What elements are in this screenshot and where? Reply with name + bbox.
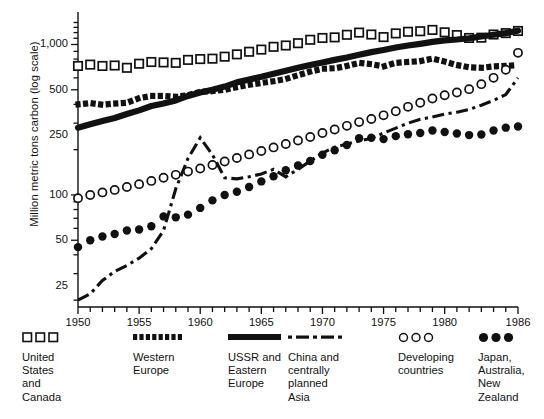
legend-label: Japan,Australia,NewZealand	[478, 351, 544, 404]
x-tick-label: 1955	[116, 316, 162, 328]
series-dash	[351, 60, 358, 67]
series-developing-countries	[74, 49, 522, 203]
series-dash	[381, 62, 388, 69]
data-point	[184, 210, 192, 218]
data-point	[477, 130, 485, 138]
data-point	[98, 188, 106, 196]
series-dash	[105, 101, 111, 108]
series-dash	[306, 68, 313, 75]
data-point	[233, 188, 241, 196]
data-point	[208, 196, 216, 204]
series-dash	[142, 94, 148, 101]
legend-item: UnitedStatesandCanada	[22, 330, 117, 404]
legend-label: UnitedStatesandCanada	[22, 351, 117, 404]
data-point	[294, 39, 302, 47]
data-point	[502, 66, 510, 74]
data-point	[428, 26, 436, 34]
series-dash	[463, 63, 469, 70]
series-dash	[262, 79, 268, 86]
data-point	[172, 59, 180, 67]
series-dash	[471, 64, 476, 70]
series-dash	[98, 101, 104, 108]
data-point	[465, 131, 473, 139]
data-point	[379, 33, 387, 41]
data-point	[233, 154, 241, 162]
legend-label-line: and	[22, 377, 117, 390]
series-dash	[127, 98, 134, 106]
data-point	[465, 85, 473, 93]
data-point	[294, 161, 302, 169]
legend-label-line: Asia	[288, 391, 383, 404]
series-dash	[270, 78, 276, 85]
y-tick-label: 25	[22, 279, 68, 291]
series-dash	[134, 95, 141, 103]
data-point	[294, 136, 302, 144]
series-dash	[121, 100, 127, 107]
data-point	[269, 143, 277, 151]
data-point	[196, 204, 204, 212]
data-point	[379, 135, 387, 143]
data-point	[282, 140, 290, 148]
series-dash	[426, 56, 432, 63]
data-point	[355, 28, 363, 36]
data-point	[172, 171, 180, 179]
data-point	[257, 177, 265, 185]
data-point	[123, 64, 131, 72]
data-point	[110, 230, 118, 238]
data-point	[392, 132, 400, 140]
data-point	[416, 99, 424, 107]
data-point	[159, 174, 167, 182]
legend-label: China andcentrallyplannedAsia	[288, 351, 383, 404]
legend-label-line: States	[22, 364, 117, 377]
plot-area	[0, 0, 544, 340]
data-point	[196, 55, 204, 63]
legend-label-line: Zealand	[478, 391, 544, 404]
dash-dot-key	[288, 330, 383, 344]
series-dash	[374, 62, 380, 69]
series-dash	[419, 57, 425, 64]
x-tick-label: 1975	[361, 316, 407, 328]
legend-label-line: Western	[133, 351, 228, 364]
legend-label-line: Europe	[133, 364, 228, 377]
data-point	[343, 141, 351, 149]
x-tick-label: 1965	[238, 316, 284, 328]
data-point	[110, 61, 118, 69]
series-dash	[113, 100, 119, 107]
data-point	[477, 80, 485, 88]
data-point	[343, 31, 351, 39]
series-dash	[388, 60, 395, 67]
data-point	[453, 88, 461, 96]
data-point	[98, 232, 106, 240]
data-point	[245, 48, 253, 56]
thick-dash-key	[133, 330, 228, 344]
series-dash	[336, 64, 342, 71]
series-dash	[322, 65, 327, 71]
data-point	[135, 225, 143, 233]
data-point	[245, 150, 253, 158]
x-tick-label: 1960	[177, 316, 223, 328]
series-dash	[329, 65, 334, 71]
data-point	[282, 166, 290, 174]
legend-label-line: New	[478, 377, 544, 390]
data-point	[208, 161, 216, 169]
series-dash	[292, 72, 299, 79]
data-point	[379, 111, 387, 119]
legend-item: China andcentrallyplannedAsia	[288, 330, 383, 404]
series-dash	[396, 59, 402, 66]
data-point	[86, 236, 94, 244]
data-point	[404, 130, 412, 138]
data-point	[428, 94, 436, 102]
data-point	[147, 222, 155, 230]
legend-item: Japan,Australia,NewZealand	[478, 330, 544, 404]
data-point	[416, 27, 424, 35]
series-dash	[83, 100, 89, 107]
data-point	[306, 36, 314, 44]
data-point	[269, 172, 277, 180]
series-dash	[90, 100, 96, 107]
y-tick-label: 100	[22, 188, 68, 200]
x-tick-label: 1980	[422, 316, 468, 328]
series-dash	[277, 76, 283, 83]
data-point	[428, 126, 436, 134]
data-point	[330, 33, 338, 41]
series-dash	[359, 60, 365, 67]
